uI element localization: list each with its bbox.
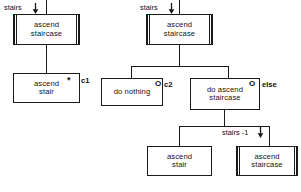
subtree-ascend-staircase-recursive-box: ascend staircase <box>236 146 298 176</box>
subtree-bus <box>179 126 269 127</box>
left-tree-root-box: ascend staircase <box>13 14 80 45</box>
right-tree-trunk-line <box>179 0 180 14</box>
box-line-2: staircase <box>31 30 62 39</box>
box-line-1: do nothing <box>114 88 150 97</box>
condition-label-c1: c1 <box>81 76 89 85</box>
subtree-stem <box>224 110 225 126</box>
right-tree-branch-stem <box>179 45 180 66</box>
left-tree-input-label: stairs <box>4 3 22 12</box>
edge-label-stairs-minus-1: stairs -1 <box>222 128 248 137</box>
box-line-2: staircase <box>251 161 282 170</box>
recursion-decomposition-diagram: stairs ascend staircase ascend stair * c… <box>0 0 301 192</box>
right-tree-branch-drop-right <box>228 66 229 78</box>
condition-label-else: else <box>262 80 277 89</box>
right-tree-branch-drop-left <box>131 66 132 78</box>
down-arrow-icon <box>168 3 175 14</box>
left-tree-child-connector <box>46 45 47 73</box>
down-arrow-icon <box>32 3 39 14</box>
condition-label-c2: c2 <box>164 80 172 89</box>
box-line-2: stair <box>172 161 187 170</box>
choice-marker-o: O <box>249 80 255 88</box>
right-tree-branch-bus <box>131 66 228 67</box>
right-tree-root-box: ascend staircase <box>146 14 213 45</box>
subtree-ascend-stair-box: ascend stair <box>147 146 212 176</box>
choice-marker-o: O <box>155 80 161 88</box>
left-tree-trunk-line <box>46 0 47 14</box>
subtree-drop-right <box>269 126 270 146</box>
right-tree-input-label: stairs <box>140 3 158 12</box>
box-line-2: staircase <box>164 30 195 39</box>
box-line-2: staircase <box>209 94 240 103</box>
repeat-star-marker: * <box>67 76 71 85</box>
box-line-2: stair <box>39 88 54 97</box>
subtree-drop-left <box>179 126 180 146</box>
down-arrow-icon <box>257 127 264 138</box>
do-nothing-box: do nothing <box>101 78 163 106</box>
